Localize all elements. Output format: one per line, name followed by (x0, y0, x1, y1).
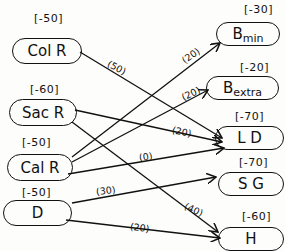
node-calr: Cal R (7, 154, 73, 181)
edge-label-d-h: (20) (129, 221, 150, 234)
node-bextra-sub: extra (233, 86, 262, 99)
supply-d: [-50] (22, 186, 51, 199)
node-d-label: D (32, 204, 44, 222)
node-sg: S G (218, 172, 284, 196)
node-bmin-sub: min (243, 32, 264, 45)
node-bmin-label: B (232, 25, 242, 43)
node-h: H (218, 227, 284, 251)
demand-bmin: [-30] (244, 3, 273, 16)
node-ld-label: L D (237, 129, 262, 147)
node-calr-label: Cal R (20, 159, 59, 177)
node-sg-label: S G (238, 175, 264, 193)
demand-h: [-60] (242, 210, 271, 223)
demand-ld: [-70] (235, 110, 264, 123)
demand-bextra: [-20] (240, 61, 269, 74)
node-colr: Col R (12, 38, 82, 64)
node-sacr: Sac R (9, 99, 77, 126)
node-h-label: H (245, 230, 256, 248)
node-bmin: Bmin (216, 22, 280, 46)
node-colr-label: Col R (27, 42, 66, 60)
edge-d-sg (72, 177, 216, 203)
node-bextra-label: B (223, 79, 233, 97)
supply-colr: [-50] (34, 12, 63, 25)
node-ld: L D (215, 126, 284, 150)
node-d: D (3, 200, 72, 226)
edge-colr-ld (80, 52, 222, 138)
supply-sacr: [-60] (30, 83, 59, 96)
edge-label-calr-ld: (0) (138, 150, 153, 163)
demand-sg: [-70] (239, 156, 268, 169)
supply-calr: [-50] (22, 136, 51, 149)
node-bextra: Bextra (206, 76, 279, 100)
node-sacr-label: Sac R (22, 104, 64, 122)
